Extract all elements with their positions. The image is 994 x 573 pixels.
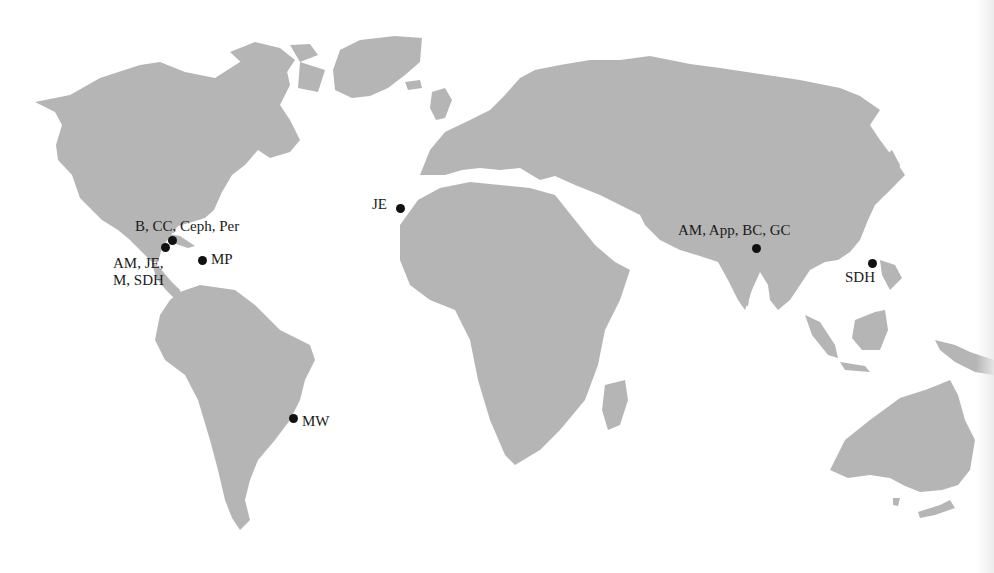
sumatra <box>805 315 838 358</box>
new-zealand <box>918 500 955 518</box>
marker-india[interactable] <box>752 244 761 253</box>
marker-caribbean-north[interactable] <box>168 236 177 245</box>
label-india: AM, App, BC, GC <box>678 222 791 239</box>
marker-philippines[interactable] <box>868 259 877 268</box>
africa <box>400 182 630 465</box>
label-brazil: MW <box>302 413 330 430</box>
world-map-figure: B, CC, Ceph, Per AM, JE, M, SDH MP JE MW… <box>0 0 994 573</box>
label-lesser-antilles: MP <box>211 251 233 268</box>
marker-central-america[interactable] <box>161 243 170 252</box>
label-philippines: SDH <box>845 269 875 286</box>
page-edge-shadow <box>976 0 994 573</box>
marker-brazil[interactable] <box>289 414 298 423</box>
label-caribbean-north: B, CC, Ceph, Per <box>135 218 239 235</box>
label-central-america-line1: AM, JE, <box>113 255 163 272</box>
tasmania <box>893 498 900 506</box>
south-america <box>155 285 315 530</box>
marker-lesser-antilles[interactable] <box>198 256 207 265</box>
label-canary-islands: JE <box>372 196 387 213</box>
uk <box>430 88 452 120</box>
java <box>840 362 870 372</box>
iceland <box>405 80 422 90</box>
madagascar <box>602 380 628 430</box>
sri-lanka <box>742 292 750 306</box>
marker-canary-islands[interactable] <box>396 204 405 213</box>
australia <box>830 380 975 492</box>
label-central-america-line2: M, SDH <box>113 272 164 289</box>
borneo <box>852 310 888 350</box>
philippines-island <box>880 260 902 290</box>
